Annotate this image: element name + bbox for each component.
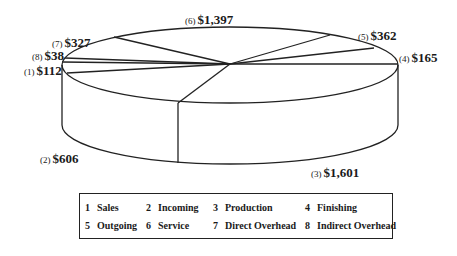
slice-index: (3) (311, 169, 322, 179)
slice-index: (1) (24, 67, 35, 77)
slice-index: (8) (32, 52, 43, 62)
slice-index: (5) (358, 32, 369, 42)
legend-item-outgoing: 5Outgoing (85, 220, 137, 231)
slice-index: (4) (399, 54, 410, 64)
legend-item-direct-overhead: 7Direct Overhead (213, 220, 296, 231)
legend-item-indirect-overhead: 8Indirect Overhead (305, 220, 396, 231)
chart-legend: 1Sales 2Incoming 3Production 4Finishing … (79, 193, 393, 239)
legend-item-incoming: 2Incoming (146, 202, 199, 213)
slice-value: $362 (371, 28, 397, 43)
slice-label-3: (3)$1,601 (311, 164, 359, 180)
slice-label-8: (8)$38 (32, 47, 64, 63)
slice-value: $112 (37, 63, 62, 78)
pie-top-ellipse (62, 27, 398, 103)
slice-value: $606 (53, 151, 79, 166)
legend-item-sales: 1Sales (85, 202, 119, 213)
slice-label-1: (1)$112 (24, 62, 62, 78)
legend-item-finishing: 4Finishing (305, 202, 357, 213)
slice-label-2: (2)$606 (40, 150, 79, 166)
legend-item-service: 6Service (146, 220, 189, 231)
slice-index: (2) (40, 155, 51, 165)
slice-value: $1,601 (324, 165, 360, 180)
cylinder-bottom-arc (62, 125, 398, 164)
slice-value: $38 (45, 48, 65, 63)
slice-label-6: (6)$1,397 (185, 11, 233, 27)
slice-value: $1,397 (198, 12, 234, 27)
legend-item-production: 3Production (213, 202, 273, 213)
slice-label-4: (4)$165 (399, 49, 438, 65)
slice-value: $327 (65, 35, 91, 50)
slice-index: (6) (185, 16, 196, 26)
slice-label-5: (5)$362 (358, 27, 397, 43)
slice-value: $165 (412, 50, 438, 65)
